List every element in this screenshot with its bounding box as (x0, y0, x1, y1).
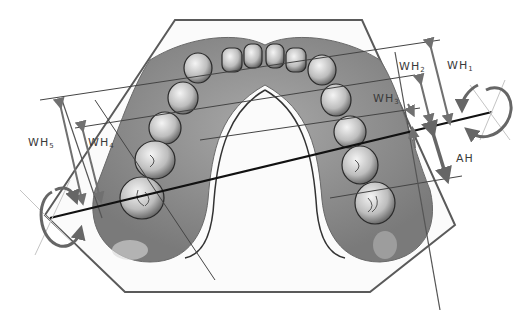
wh2-arrow (420, 80, 430, 120)
label-wh5: WH5 (28, 136, 54, 150)
ah-arrow (432, 130, 446, 176)
rotation-arrow-right (462, 85, 511, 137)
label-wh2: WH2 (399, 60, 425, 74)
wh1-arrow (430, 44, 449, 120)
label-wh3: WH3 (373, 92, 399, 106)
label-wh1: WH1 (447, 59, 473, 73)
wh3-arrow (408, 104, 412, 112)
label-wh4: WH4 (88, 136, 114, 150)
label-ah: AH (456, 152, 474, 165)
dental-arch-diagram (0, 0, 526, 310)
